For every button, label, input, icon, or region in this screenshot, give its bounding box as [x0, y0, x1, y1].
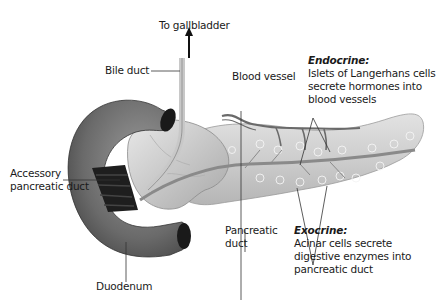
duodenum-opening-bottom [177, 223, 191, 249]
endocrine-title: Endocrine: [308, 54, 369, 67]
label-blood-vessel: Blood vessel [232, 70, 296, 83]
exocrine-title: Exocrine: [294, 224, 347, 237]
endocrine-line-1: Islets of Langerhans cells [308, 67, 435, 80]
endocrine-line-2: secrete hormones into [308, 80, 422, 93]
label-pancreatic-duct-1: Pancreatic [225, 224, 278, 237]
label-accessory-duct-1: Accessory [10, 167, 61, 180]
label-accessory-duct-2: pancreatic duct [10, 180, 89, 193]
exocrine-line-3: pancreatic duct [294, 263, 373, 276]
exocrine-line-1: Acinar cells secrete [294, 237, 392, 250]
endocrine-line-3: blood vessels [308, 93, 376, 106]
label-duodenum: Duodenum [96, 280, 152, 293]
label-bile-duct: Bile duct [105, 64, 149, 77]
exocrine-line-2: digestive enzymes into [294, 250, 411, 263]
label-to-gallbladder: To gallbladder [159, 19, 230, 32]
label-pancreatic-duct-2: duct [225, 237, 247, 250]
